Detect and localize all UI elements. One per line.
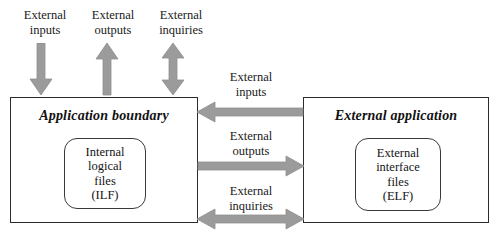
external-interface-files-box: External interface files (ELF) bbox=[355, 138, 441, 211]
label-external-inquiries-top: External inquiries bbox=[137, 8, 225, 37]
arrow-right-external-outputs bbox=[197, 155, 304, 177]
label-external-inputs-middle: External inputs bbox=[208, 70, 294, 99]
diagram-canvas: External inputs External outputs Externa… bbox=[0, 0, 500, 246]
arrow-left-external-inputs bbox=[197, 101, 304, 123]
arrow-updown-external-inquiries bbox=[161, 43, 185, 96]
arrow-up-external-outputs bbox=[95, 43, 119, 96]
arrow-down-external-inputs bbox=[29, 43, 53, 96]
application-boundary-title: Application boundary bbox=[10, 108, 198, 124]
external-interface-files-label: External interface files (ELF) bbox=[376, 146, 420, 204]
label-external-outputs-middle: External outputs bbox=[208, 129, 294, 158]
internal-logical-files-label: Internal logical files (ILF) bbox=[86, 145, 125, 203]
external-application-title: External application bbox=[303, 108, 489, 124]
arrow-leftright-external-inquiries bbox=[197, 208, 304, 230]
internal-logical-files-box: Internal logical files (ILF) bbox=[64, 138, 146, 209]
